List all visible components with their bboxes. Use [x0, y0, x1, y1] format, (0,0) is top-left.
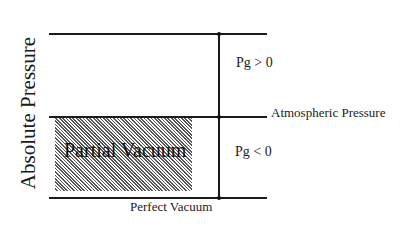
atmospheric-intersection-marker [217, 115, 221, 119]
top-intersection-marker [217, 32, 221, 36]
atmospheric-pressure-label: Atmospheric Pressure [271, 105, 385, 121]
vacuum-intersection-marker [217, 196, 221, 200]
y-axis-label: Absolute Pressure [16, 23, 40, 203]
perfect-vacuum-label: Perfect Vacuum [130, 199, 212, 215]
partial-vacuum-label: Partial Vacuum [64, 138, 186, 162]
gauge-negative-label: Pg < 0 [235, 144, 272, 160]
gauge-positive-label: Pg > 0 [236, 55, 273, 71]
top-pressure-line [49, 33, 267, 35]
